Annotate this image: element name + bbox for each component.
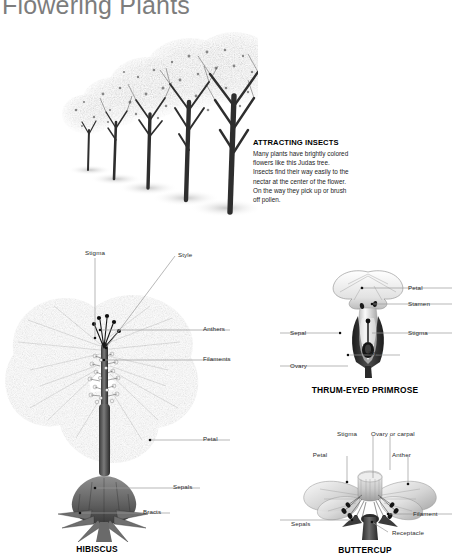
hibiscus-caption: HIBISCUS — [76, 544, 118, 554]
primrose-label-ovary: Ovary — [290, 363, 307, 369]
primrose-label-petal: Petal — [408, 285, 423, 291]
primrose-caption: THRUM-EYED PRIMROSE — [312, 385, 419, 395]
primrose-label-stamen: Stamen — [408, 301, 430, 307]
attracting-insects-callout: ATTRACTING INSECTS Many plants have brig… — [253, 138, 349, 204]
attracting-insects-heading: ATTRACTING INSECTS — [253, 138, 349, 147]
hibiscus-label-anthers: Anthers — [203, 326, 225, 332]
attracting-insects-body: Many plants have brightly colored flower… — [253, 149, 349, 204]
buttercup-label-ovary: Ovary or carpal — [371, 431, 415, 437]
primrose-label-sepal: Sepal — [290, 330, 306, 336]
page-root: Flowering Plants — [0, 0, 452, 556]
buttercup-label-receptacle: Receptacle — [392, 530, 424, 536]
hibiscus-leader-lines — [0, 240, 260, 530]
page-title: Flowering Plants — [2, 0, 190, 20]
buttercup-label-stigma: Stigma — [337, 431, 357, 437]
hibiscus-label-bracts: Bracts — [143, 509, 161, 515]
buttercup-label-anther: Anther — [392, 452, 411, 458]
primrose-label-style: Style — [368, 350, 382, 356]
primrose-label-stigma: Stigma — [408, 330, 428, 336]
buttercup-caption: BUTTERCUP — [338, 545, 391, 555]
buttercup-label-petal: Petal — [313, 452, 328, 458]
hibiscus-label-stigma: Stigma — [85, 250, 105, 256]
hibiscus-label-filaments: Filaments — [203, 356, 231, 362]
judas-tree-illustration — [48, 22, 258, 222]
hibiscus-label-sepals: Sepals — [173, 484, 193, 490]
hibiscus-label-style: Style — [178, 252, 192, 258]
buttercup-label-sepals: Sepals — [291, 521, 311, 527]
hibiscus-label-petal: Petal — [203, 436, 218, 442]
buttercup-label-filament: Filament — [413, 511, 438, 517]
